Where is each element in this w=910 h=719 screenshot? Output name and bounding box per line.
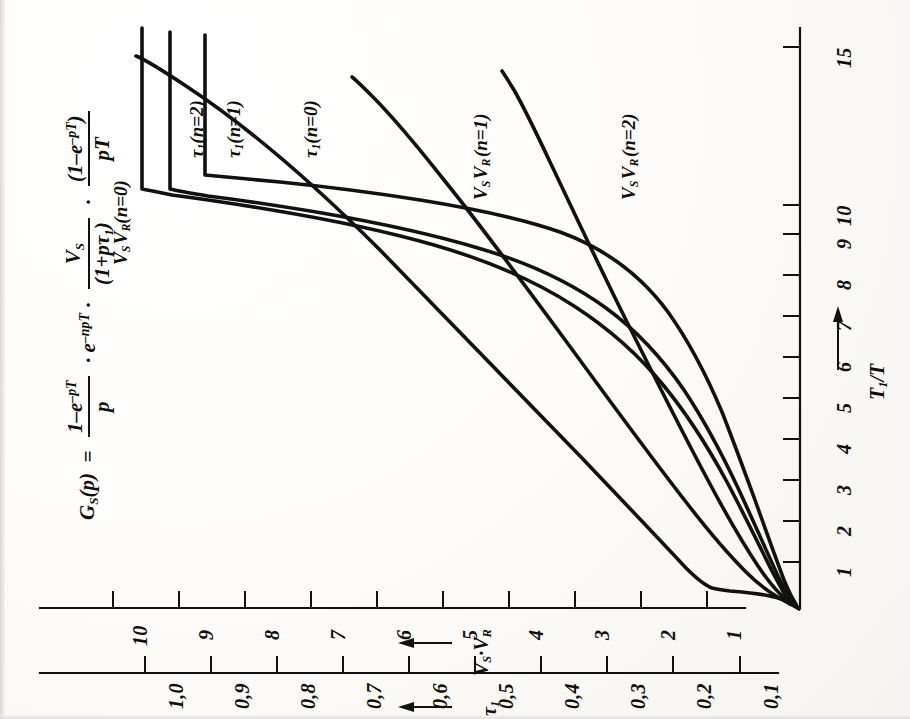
y-left-axis-label-text: VS·VR	[470, 629, 492, 676]
vs-sub: S	[480, 656, 494, 663]
curve-label-text: τ1(n=1)	[223, 100, 244, 158]
y-right-tick-label: 0,1	[760, 683, 783, 709]
curve-vsvr-n1	[352, 77, 798, 608]
x-tick-label: 7	[833, 321, 856, 331]
y-left-tick-label: 3	[591, 630, 614, 640]
formula-equals: =	[76, 445, 101, 467]
curve-label-text: τ1(n=0)	[300, 100, 321, 158]
formula-term3-num: VS	[62, 218, 88, 289]
curve-label-vsvr-n2: VS VR (n=2)	[618, 114, 642, 201]
y-left-tick-label: 7	[327, 630, 350, 640]
formula-term3-den: (1+pτ1)	[88, 218, 116, 289]
curve-label-text: τ1(n=2)	[186, 100, 207, 158]
x-axis	[783, 28, 843, 608]
y-left-tick-label: 9	[195, 630, 218, 640]
x-tick-label: 1	[833, 567, 856, 577]
x-axis-label-sub: 1	[876, 382, 890, 388]
y-right-tick-label: 0,4	[561, 683, 584, 709]
y-right-axis-label-text: τ1	[478, 701, 500, 716]
formula-term4: (1–e–pT) pT	[64, 111, 113, 186]
curve-label-tau1-n2: τ1(n=2)	[186, 100, 210, 158]
formula-lhs: GS(p)	[75, 473, 102, 520]
formula-term4-num: (1–e–pT)	[64, 111, 88, 186]
y-right-tick-label: 0,6	[429, 683, 452, 709]
y-left-tick-label: 2	[657, 630, 680, 640]
x-tick-label: 9	[833, 239, 856, 249]
tau-sub: 1	[488, 701, 502, 707]
curve-label-tau1-n0: τ1(n=0)	[300, 100, 324, 158]
y-left-tick-label: 8	[261, 630, 284, 640]
formula-term4-den: pT	[88, 111, 114, 186]
y-right-tick-label: 0,7	[363, 683, 386, 709]
y-right-tick-label: 0,2	[693, 683, 716, 709]
y-right-tick-label: 0,3	[627, 683, 650, 709]
formula-dot3: ·	[76, 194, 101, 210]
y-right-tick-label: 0,9	[231, 683, 254, 709]
y-left-tick-label: 10	[129, 626, 152, 646]
vr-sub: R	[480, 629, 494, 637]
y-left-tick-label: 4	[525, 630, 548, 640]
curve-label-vsvr-n1: VS VR (n=1)	[470, 114, 494, 201]
x-axis-label: T1/T	[866, 364, 891, 400]
curve-label-text: VS VR (n=2)	[618, 114, 639, 201]
y-right-tick-label: 0,8	[297, 683, 320, 709]
y-left-tick-label: 6	[393, 630, 416, 640]
formula-term1-num: 1–e–pT	[64, 376, 88, 437]
formula-term1: 1–e–pT p	[64, 376, 113, 437]
x-tick-label: 8	[833, 280, 856, 290]
x-tick-label: 5	[833, 403, 856, 413]
x-axis-label-text: T1/T	[866, 364, 888, 400]
y-right-axis	[40, 656, 778, 712]
formula-term3: VS (1+pτ1)	[62, 218, 115, 289]
x-tick-label: 3	[833, 485, 856, 495]
x-tick-label: 2	[833, 526, 856, 536]
y-left-axis-label: VS·VR	[470, 629, 495, 676]
curve-tau1-n0	[205, 35, 796, 604]
x-tick-label: 6	[833, 362, 856, 372]
x-tick-label: 4	[833, 444, 856, 454]
y-left-tick-label: 1	[723, 630, 746, 640]
formula-term1-den: p	[88, 376, 114, 437]
x-tick-label: 10	[833, 206, 856, 226]
curve-label-tau1-n1: τ1(n=1)	[223, 100, 247, 158]
formula-dot1: · e–npT ·	[76, 297, 101, 368]
chart-figure: 1 2 3 4 5 6 7 8 9 10 15 --> rotated --> …	[0, 0, 910, 719]
y-right-tick-label: 1,0	[165, 683, 188, 709]
y-right-axis-label: τ1	[478, 701, 503, 716]
curve-label-text: VS VR (n=1)	[470, 114, 491, 201]
transfer-function-formula: GS(p) = 1–e–pT p · e–npT · VS (1+pτ1) · …	[62, 108, 115, 520]
chart-svg	[0, 0, 910, 719]
x-tick-label: 15	[833, 48, 856, 68]
